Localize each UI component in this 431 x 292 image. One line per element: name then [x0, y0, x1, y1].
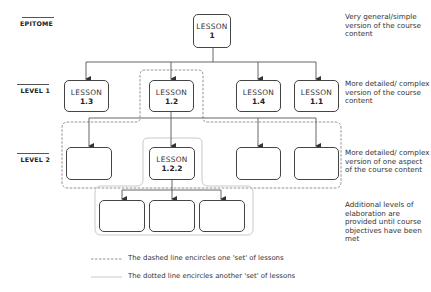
level-label-2: LEVEL 2 — [0, 156, 50, 163]
level2-description: More detailed/ complex version of one as… — [345, 149, 431, 175]
lesson-title: LESSON — [237, 88, 280, 97]
lesson-node-1-2-2: LESSON 1.2.2 — [149, 147, 195, 180]
level-label-1: LEVEL 1 — [0, 87, 50, 94]
lesson-number: 1.2.2 — [150, 164, 194, 173]
lesson-node-1-4: LESSON 1.4 — [236, 80, 281, 112]
level-label-epitome: EPITOME — [3, 20, 53, 27]
lesson-number: 1.2 — [150, 97, 193, 106]
level2-rule — [17, 153, 49, 154]
lesson-node-1-3: LESSON 1.3 — [64, 80, 109, 112]
lesson-node-1-2: LESSON 1.2 — [149, 80, 194, 112]
lesson-title: LESSON — [65, 88, 108, 97]
lesson-title: LESSON — [150, 88, 193, 97]
lesson-number: 1 — [194, 31, 230, 40]
lesson-title: LESSON — [194, 22, 230, 31]
lesson-node-1-1: LESSON 1.1 — [294, 80, 339, 112]
lesson-node-1: LESSON 1 — [193, 14, 231, 48]
lesson-title: LESSON — [295, 88, 338, 97]
lesson-node-level3-a — [99, 200, 145, 232]
lesson-number: 1.4 — [237, 97, 280, 106]
legend-dashed-text: The dashed line encircles one 'set' of l… — [128, 254, 284, 262]
lesson-node-level2-d — [294, 147, 339, 180]
lesson-number: 1.1 — [295, 97, 338, 106]
epitome-description: Very general/simple version of the cours… — [345, 13, 431, 39]
lesson-node-level3-c — [199, 200, 245, 232]
lesson-node-level3-b — [149, 200, 195, 232]
additional-levels-description: Additional levels of elaboration are pro… — [345, 201, 425, 244]
epitome-rule — [22, 17, 54, 18]
legend-dotted-text: The dotted line encircles another 'set' … — [128, 272, 295, 280]
lesson-node-level2-a — [66, 147, 112, 180]
lesson-node-level2-c — [236, 147, 281, 180]
lesson-number: 1.3 — [65, 97, 108, 106]
lesson-title: LESSON — [150, 155, 194, 164]
level1-rule — [17, 84, 49, 85]
level1-description: More detailed/ complex version of the co… — [345, 80, 431, 106]
